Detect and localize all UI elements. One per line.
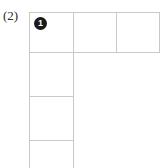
- grid-cell-row-2-col-0[interactable]: [29, 96, 74, 141]
- grid-cell-row-0-col-0[interactable]: 1: [29, 12, 74, 53]
- grid-cell-row-3-col-0[interactable]: [29, 140, 74, 168]
- grid-cell-row-1-col-0[interactable]: [29, 52, 74, 97]
- problem-number-label: (2): [3, 9, 18, 23]
- grid-cell-row-0-col-2[interactable]: [116, 12, 160, 53]
- figure-container: (2) 1: [0, 0, 167, 168]
- puzzle-grid: 1: [29, 12, 160, 168]
- grid-cell-row-0-col-1[interactable]: [73, 12, 117, 53]
- filled-circle-number-1-icon: 1: [34, 17, 47, 30]
